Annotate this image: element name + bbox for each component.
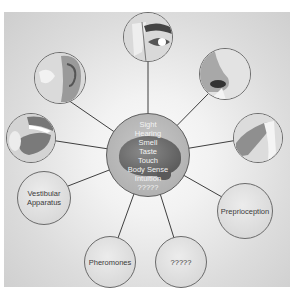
mouth-node — [6, 113, 56, 163]
sense-sight: Sight — [107, 120, 189, 129]
sense-smell: Smell — [107, 138, 189, 147]
unknown-sense-node: ????? — [155, 236, 207, 288]
sense-unknown: ????? — [107, 183, 189, 192]
preprioception-node: Preprioception — [217, 183, 273, 239]
ear-icon — [35, 52, 85, 104]
finger-node — [233, 113, 283, 163]
senses-list: Sight Hearing Smell Taste Touch Body Sen… — [107, 120, 189, 192]
nose-node — [199, 48, 251, 100]
vestibular-label-line2: Apparatus — [27, 198, 61, 207]
ear-node — [34, 52, 86, 104]
sense-hearing: Hearing — [107, 129, 189, 138]
sense-touch: Touch — [107, 156, 189, 165]
vestibular-apparatus-node: Vestibular Apparatus — [17, 171, 71, 225]
pheromones-label: Pheromones — [89, 258, 132, 267]
unknown-sense-label: ????? — [171, 258, 192, 267]
preprioception-label: Preprioception — [221, 207, 269, 216]
pheromones-node: Pheromones — [84, 236, 136, 288]
center-brain-node: Sight Hearing Smell Taste Touch Body Sen… — [106, 113, 190, 197]
sense-taste: Taste — [107, 147, 189, 156]
vestibular-label-line1: Vestibular — [27, 189, 61, 198]
nose-icon — [200, 48, 250, 100]
sense-intuition: Intuition — [107, 174, 189, 183]
sense-body-sense: Body Sense — [107, 165, 189, 174]
finger-touch-icon — [234, 113, 282, 163]
mouth-tongue-icon — [7, 113, 55, 163]
eye-icon — [124, 12, 172, 62]
eye-node — [123, 12, 173, 62]
